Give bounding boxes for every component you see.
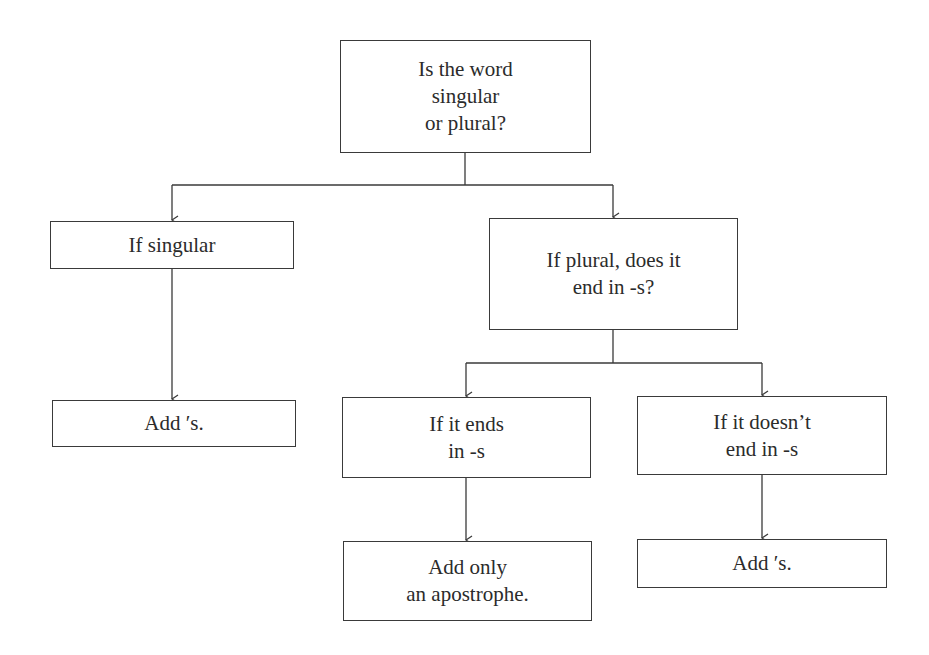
- node-not-ends-in-s-line-2: end in -s: [726, 436, 798, 463]
- node-root-line-3: or plural?: [425, 110, 506, 137]
- node-if-plural: If plural, does it end in -s?: [489, 218, 738, 330]
- node-if-singular: If singular: [50, 221, 294, 269]
- node-root-line-1: Is the word: [418, 56, 512, 83]
- node-not-ends-in-s-result-line-1: Add ′s.: [732, 550, 791, 577]
- node-root-line-2: singular: [432, 83, 500, 110]
- node-plural-line-2: end in -s?: [573, 274, 655, 301]
- node-not-ends-in-s-line-1: If it doesn’t: [713, 409, 811, 436]
- node-ends-in-s: If it ends in -s: [342, 397, 591, 478]
- node-plural-line-1: If plural, does it: [546, 247, 680, 274]
- node-ends-in-s-line-2: in -s: [448, 438, 485, 465]
- node-not-ends-in-s-result: Add ′s.: [637, 539, 887, 588]
- node-singular-result: Add ′s.: [52, 400, 296, 447]
- node-ends-in-s-line-1: If it ends: [429, 411, 504, 438]
- node-singular-line-1: If singular: [129, 232, 216, 259]
- node-ends-in-s-result-line-2: an apostrophe.: [406, 581, 528, 608]
- flowchart-canvas: Is the word singular or plural? If singu…: [0, 0, 929, 655]
- node-not-ends-in-s: If it doesn’t end in -s: [637, 396, 887, 475]
- node-root-question: Is the word singular or plural?: [340, 40, 591, 153]
- node-singular-result-line-1: Add ′s.: [144, 410, 203, 437]
- node-ends-in-s-result: Add only an apostrophe.: [343, 541, 592, 621]
- node-ends-in-s-result-line-1: Add only: [428, 554, 507, 581]
